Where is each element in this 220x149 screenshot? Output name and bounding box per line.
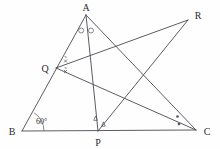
vertex-label-P: P xyxy=(95,137,101,148)
circle-mark-icon xyxy=(89,28,94,33)
geometry-canvas: A B C P Q R 60° x x xyxy=(0,0,220,149)
vertex-label-R: R xyxy=(195,10,202,21)
segment-BC xyxy=(22,130,196,131)
dot-mark-icon xyxy=(178,123,181,126)
angle-label-Q-upper: x xyxy=(64,54,67,59)
x-mark-icon xyxy=(64,60,67,63)
segment-AP xyxy=(86,15,98,131)
vertex-label-Q: Q xyxy=(41,63,49,74)
angle-label-Q-lower: x xyxy=(64,65,67,70)
segment-BA xyxy=(22,15,86,131)
vertex-label-A: A xyxy=(82,2,90,13)
angle-mark-C xyxy=(176,115,180,125)
vertex-label-B: B xyxy=(9,126,16,137)
angle-mark-A xyxy=(79,28,94,33)
vertex-label-group: A B C P Q R xyxy=(9,2,211,148)
dot-mark-icon xyxy=(176,115,179,118)
angle-label-B: 60° xyxy=(36,117,47,126)
circle-mark-icon xyxy=(79,28,84,33)
segment-AC xyxy=(86,15,196,130)
vertex-label-C: C xyxy=(204,126,211,137)
segment-QC xyxy=(56,68,196,130)
geometry-figure: A B C P Q R 60° x x xyxy=(0,0,220,149)
